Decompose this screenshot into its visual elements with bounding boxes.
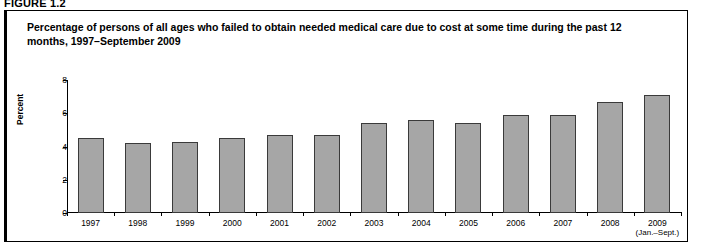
bar (172, 142, 198, 213)
bar-slot (408, 80, 434, 213)
x-tick-label: 2000 (209, 218, 256, 228)
x-tick-label: 2004 (398, 218, 445, 228)
x-tick-mark (681, 212, 682, 216)
x-tick-mark (209, 212, 210, 216)
x-tick-label: 2006 (492, 218, 539, 228)
x-tick-label: 2008 (587, 218, 634, 228)
y-axis-title: Percent (15, 94, 25, 125)
bar-slot (455, 80, 481, 213)
bar-slot (644, 80, 670, 213)
y-tick-label: 2 (45, 175, 67, 185)
bar-slot (78, 80, 104, 213)
x-tick-label: 2002 (303, 218, 350, 228)
bar (314, 135, 340, 213)
x-tick-mark (539, 212, 540, 216)
x-tick-label: 2001 (256, 218, 303, 228)
chart-plot-area: Percent 02468 19971998199920002001200220… (0, 0, 701, 245)
bar (503, 115, 529, 213)
y-tick-label: 4 (45, 142, 67, 152)
x-tick-sublabel: (Jan.–Sept.) (634, 228, 681, 238)
x-tick-mark (492, 212, 493, 216)
x-tick-label: 1998 (114, 218, 161, 228)
bar-slot (361, 80, 387, 213)
x-tick-label: 2009(Jan.–Sept.) (634, 218, 681, 238)
x-tick-mark (587, 212, 588, 216)
bar-slot (219, 80, 245, 213)
bar-slot (503, 80, 529, 213)
x-tick-mark (350, 212, 351, 216)
bar-slot (597, 80, 623, 213)
x-tick-mark (67, 212, 68, 216)
x-tick-mark (161, 212, 162, 216)
bar (361, 123, 387, 213)
x-tick-mark (303, 212, 304, 216)
x-tick-label: 2007 (539, 218, 586, 228)
bar (267, 135, 293, 213)
x-tick-mark (256, 212, 257, 216)
bar (597, 102, 623, 213)
bar (125, 143, 151, 213)
bar-slot (314, 80, 340, 213)
x-tick-mark (445, 212, 446, 216)
bar (78, 138, 104, 213)
y-tick-label: 6 (45, 108, 67, 118)
x-tick-mark (398, 212, 399, 216)
bar (550, 115, 576, 213)
x-tick-label: 2005 (445, 218, 492, 228)
x-tick-mark (114, 212, 115, 216)
bar-slot (172, 80, 198, 213)
bar-slot (267, 80, 293, 213)
bar (408, 120, 434, 213)
y-tick-label: 8 (45, 75, 67, 85)
bar (455, 123, 481, 213)
x-tick-label: 1999 (161, 218, 208, 228)
bar (219, 138, 245, 213)
x-tick-label: 1997 (67, 218, 114, 228)
x-tick-mark (634, 212, 635, 216)
y-tick-label: 0 (45, 208, 67, 218)
bar-slot (125, 80, 151, 213)
bar-slot (550, 80, 576, 213)
bar (644, 95, 670, 213)
bars-layer (67, 80, 681, 213)
x-tick-label: 2003 (350, 218, 397, 228)
